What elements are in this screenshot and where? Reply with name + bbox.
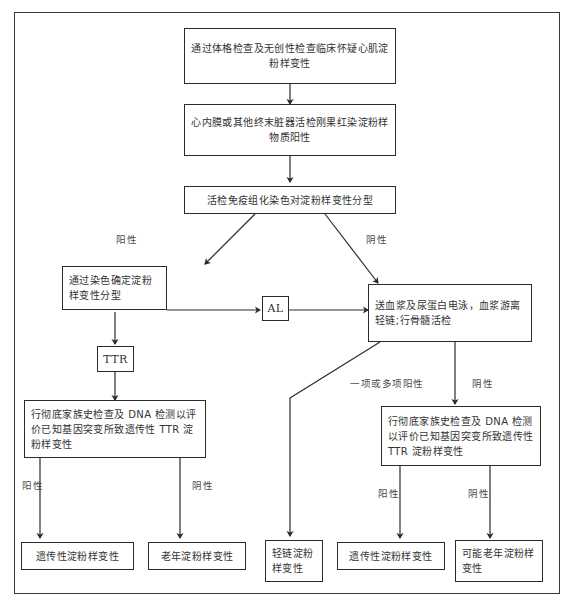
edge-label-ihc-negative: 阴性	[366, 232, 387, 246]
node-outcome-hereditary-left: 遗传性淀粉样变性	[21, 542, 134, 570]
edge-label-tests-negative: 阴性	[472, 376, 493, 390]
node-outcome-possible-senile-label: 可能老年淀粉样变性	[462, 546, 536, 576]
edge-label-dna-right-negative: 阴性	[468, 486, 489, 500]
node-outcome-hereditary-left-label: 遗传性淀粉样变性	[36, 549, 119, 564]
node-family-dna-left-label: 行彻底家族史检查及 DNA 检测以评价已知基因突变所致遗传性 TTR 淀粉样变性	[31, 407, 199, 452]
node-outcome-possible-senile: 可能老年淀粉样变性	[455, 540, 543, 582]
node-biopsy-congo-red-label: 心内膜或其他终末脏器活检刚果红染淀粉样物质阳性	[191, 115, 389, 145]
flowchart-canvas: 通过体格检查及无创性检查临床怀疑心肌淀粉样变性 心内膜或其他终末脏器活检刚果红染…	[0, 0, 574, 608]
node-outcome-senile-label: 老年淀粉样变性	[161, 549, 234, 564]
node-ttr: TTR	[97, 346, 134, 372]
node-outcome-senile: 老年淀粉样变性	[148, 542, 246, 570]
edge-label-dna-right-positive: 阳性	[378, 486, 399, 500]
node-plasma-urine-tests: 送血浆及尿蛋白电泳，血浆游离轻链;行骨髓活检	[368, 284, 532, 342]
node-stain-typing-label: 通过染色确定淀粉样变性分型	[69, 273, 160, 303]
edge-label-dna-left-negative: 阴性	[192, 478, 213, 492]
node-outcome-hereditary-right: 遗传性淀粉样变性	[337, 542, 445, 570]
node-al-label: AL	[267, 301, 283, 316]
node-immunohistochemistry: 活检免疫组化染色对淀粉样变性分型	[184, 186, 396, 214]
node-plasma-urine-tests-label: 送血浆及尿蛋白电泳，血浆游离轻链;行骨髓活检	[375, 298, 525, 328]
node-immunohistochemistry-label: 活检免疫组化染色对淀粉样变性分型	[207, 193, 373, 208]
edge-label-dna-left-positive: 阳性	[22, 478, 43, 492]
node-outcome-hereditary-right-label: 遗传性淀粉样变性	[349, 549, 432, 564]
edge-label-ihc-positive: 阳性	[116, 232, 137, 246]
node-al: AL	[262, 296, 289, 321]
node-family-dna-right-label: 行彻底家族史检查及 DNA 检测以评价已知基因突变所致遗传性 TTR 淀粉样变性	[388, 414, 534, 459]
node-clinical-suspicion: 通过体格检查及无创性检查临床怀疑心肌淀粉样变性	[184, 28, 396, 84]
node-ttr-label: TTR	[103, 352, 128, 367]
node-biopsy-congo-red: 心内膜或其他终末脏器活检刚果红染淀粉样物质阳性	[184, 104, 396, 156]
node-clinical-suspicion-label: 通过体格检查及无创性检查临床怀疑心肌淀粉样变性	[191, 41, 389, 71]
node-family-dna-left: 行彻底家族史检查及 DNA 检测以评价已知基因突变所致遗传性 TTR 淀粉样变性	[24, 400, 206, 458]
node-outcome-light-chain: 轻链淀粉样变性	[265, 540, 323, 582]
node-stain-typing: 通过染色确定淀粉样变性分型	[62, 266, 167, 310]
node-family-dna-right: 行彻底家族史检查及 DNA 检测以评价已知基因突变所致遗传性 TTR 淀粉样变性	[381, 406, 541, 466]
edge-label-tests-one-or-more-positive: 一项或多项阳性	[350, 376, 424, 390]
node-outcome-light-chain-label: 轻链淀粉样变性	[272, 546, 316, 576]
